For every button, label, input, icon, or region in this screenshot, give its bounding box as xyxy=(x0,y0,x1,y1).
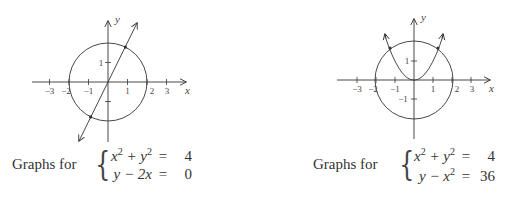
x-tick-label: −3 xyxy=(352,84,362,94)
equation-system-1: x2 + y2 = 4 y − 2x = 0 xyxy=(111,146,192,183)
x-tick-label: 3 xyxy=(165,86,170,96)
equation-rhs: 4 xyxy=(174,148,192,165)
x-tick-label: 1 xyxy=(125,86,130,96)
y-tick-label: 1 xyxy=(99,58,104,68)
y-tick-label: 1 xyxy=(405,56,410,66)
equation-lhs: x2 + y2 xyxy=(111,146,152,165)
intersection-point xyxy=(89,115,92,118)
equals-sign: = xyxy=(152,166,174,183)
y-axis-label: y xyxy=(114,13,120,25)
equation-system-2: x2 + y2 = 4 y − x2 = 36 xyxy=(414,146,495,185)
x-tick-label: −1 xyxy=(84,86,94,96)
equals-sign: = xyxy=(455,168,477,185)
left-brace-icon: { xyxy=(399,146,414,180)
left-brace-icon: { xyxy=(95,146,110,180)
x-axis-label: x xyxy=(488,82,494,94)
equals-sign: = xyxy=(455,148,477,165)
x-tick-label: 3 xyxy=(470,84,475,94)
equals-sign: = xyxy=(152,148,174,165)
graph-1: −3 −2 −1 1 2 3 1 x y xyxy=(32,13,190,142)
equation-rhs: 36 xyxy=(477,168,495,185)
graph-1-caption: Graphs for xyxy=(12,156,77,173)
x-tick-label: −1 xyxy=(390,84,400,94)
graph-2-caption: Graphs for xyxy=(313,156,378,173)
x-tick-label: 2 xyxy=(150,86,155,96)
y-axis-label: y xyxy=(420,11,426,23)
equation-rhs: 0 xyxy=(174,166,192,183)
equation-rhs: 4 xyxy=(477,148,495,165)
intersection-point xyxy=(124,46,127,49)
x-tick-label: 2 xyxy=(455,84,460,94)
intersection-point xyxy=(388,46,391,49)
equation-lhs: y − x2 xyxy=(414,166,455,185)
intersection-point xyxy=(436,46,439,49)
y-tick-label: −1 xyxy=(398,94,408,104)
x-tick-label: 1 xyxy=(431,84,436,94)
equation-lhs: y − 2x xyxy=(111,166,152,183)
graph-2: −3 −2 −1 1 2 3 1 −1 x y xyxy=(337,11,494,139)
x-axis-label: x xyxy=(184,84,190,96)
line-curve xyxy=(108,23,137,82)
equation-lhs: x2 + y2 xyxy=(414,146,455,165)
x-tick-label: −3 xyxy=(45,86,55,96)
